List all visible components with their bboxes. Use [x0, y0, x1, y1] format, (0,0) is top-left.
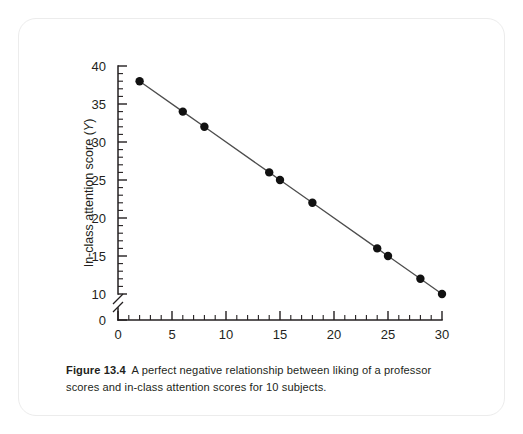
x-tick-label: 30 [435, 327, 449, 342]
x-tick-label: 15 [273, 327, 287, 342]
y-tick-label: 40 [92, 59, 106, 74]
data-point [308, 199, 316, 207]
x-axis-tick-labels: 051015202530 [114, 327, 449, 342]
y-tick-label: 0 [99, 313, 106, 328]
figure-card: 010152025303540 051015202530 Liking of a… [18, 18, 505, 416]
y-tick-label: 35 [92, 97, 106, 112]
x-tick-label: 5 [168, 327, 175, 342]
x-tick-label: 20 [327, 327, 341, 342]
x-tick-label: 0 [114, 327, 121, 342]
data-point [200, 123, 208, 131]
y-axis-ticks [118, 66, 127, 320]
data-point [384, 252, 392, 260]
data-point [438, 290, 446, 298]
x-tick-label: 25 [381, 327, 395, 342]
x-axis-ticks [118, 311, 442, 320]
y-tick-label: 10 [92, 287, 106, 302]
data-series [135, 77, 446, 298]
data-point [416, 275, 424, 283]
chart-plot-area: 010152025303540 051015202530 Liking of a… [19, 19, 506, 349]
scatter-chart-svg: 010152025303540 051015202530 Liking of a… [19, 19, 506, 349]
figure-caption: Figure 13.4 A perfect negative relations… [66, 362, 461, 395]
data-point [373, 244, 381, 252]
data-point [135, 77, 143, 85]
data-point [276, 176, 284, 184]
figure-caption-label: Figure 13.4 [66, 364, 126, 376]
x-tick-label: 10 [219, 327, 233, 342]
data-point [265, 168, 273, 176]
y-axis-title: In-class attention score (Y) [82, 119, 96, 268]
data-point [179, 107, 187, 115]
